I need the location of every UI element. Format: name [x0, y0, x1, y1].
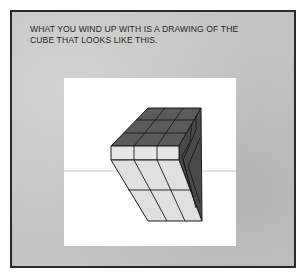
cube-front-top-row: [111, 146, 179, 160]
cube-illustration: [64, 78, 236, 246]
caption-line-1: WHAT YOU WIND UP WITH IS A DRAWING OF TH…: [30, 24, 290, 35]
comic-panel: WHAT YOU WIND UP WITH IS A DRAWING OF TH…: [10, 10, 296, 268]
caption: WHAT YOU WIND UP WITH IS A DRAWING OF TH…: [30, 24, 290, 46]
cube-drawing: [64, 78, 236, 246]
caption-line-2: CUBE THAT LOOKS LIKE THIS.: [30, 35, 290, 46]
